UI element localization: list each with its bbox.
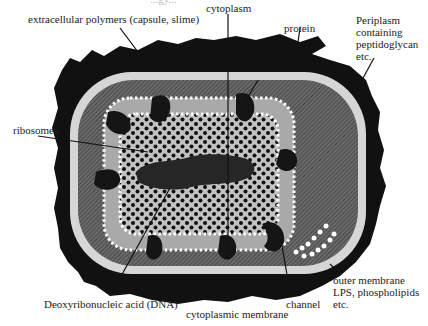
label-periplasm-line1: Periplasm: [356, 14, 400, 26]
label-periplasm-line2: containing: [356, 26, 402, 38]
label-outer-membrane-line1: outer membrane: [333, 274, 405, 286]
label-ribosomes: ribosomes: [13, 124, 58, 136]
label-outer-membrane-line2: LPS, phospholipids: [333, 286, 419, 298]
label-outer-membrane-line3: etc.: [333, 298, 349, 310]
label-periplasm-line3: peptidoglycan: [356, 38, 418, 50]
label-cytoplasmic-membrane: cytoplasmic membrane: [186, 308, 288, 320]
label-dna: Deoxyribonucleic acid (DNA): [44, 298, 178, 310]
label-periplasm-line4: etc.: [356, 50, 372, 62]
label-protein: protein: [284, 22, 315, 34]
label-channel: channel: [286, 298, 320, 310]
label-cytoplasm: cytoplasm: [206, 2, 251, 14]
label-extracellular-polymers: extracellular polymers (capsule, slime): [28, 13, 199, 25]
